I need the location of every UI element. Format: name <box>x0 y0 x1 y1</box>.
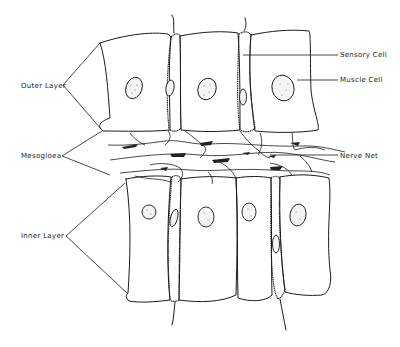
nucleus <box>198 207 214 227</box>
inner-cell-3 <box>236 177 272 301</box>
nucleus <box>123 75 146 101</box>
nerve-knot <box>200 141 213 146</box>
nerve-knot <box>170 153 186 157</box>
inner-cell-1 <box>126 176 171 302</box>
nucleus <box>240 89 247 105</box>
mesogloea-leader <box>62 131 110 175</box>
leader-lines <box>62 43 338 293</box>
label-mesogloea: Mesogloea <box>21 152 61 160</box>
nerve-knot <box>160 167 168 171</box>
sensory-process-bottom-1 <box>172 302 175 325</box>
nucleus-stipple <box>131 84 301 221</box>
inner-nuclei <box>142 203 308 253</box>
nerve-knot <box>290 142 300 146</box>
right-labels: Sensory Cell Muscle Cell Nerve Net <box>340 51 387 160</box>
nucleus <box>269 73 297 104</box>
nerve-knot <box>212 158 230 163</box>
label-outer-layer: Outer Layer <box>21 82 66 90</box>
nucleus <box>195 76 219 103</box>
outer-layer-cells <box>100 15 319 132</box>
label-muscle-cell: Muscle Cell <box>340 76 383 84</box>
hydra-body-wall-diagram: Outer Layer Mesogloea Inner Layer Sensor… <box>0 0 400 347</box>
sensory-process-top-1 <box>172 15 174 33</box>
nerve-knot <box>270 166 283 170</box>
label-nerve-net: Nerve Net <box>340 152 378 160</box>
inner-layer-cells <box>126 175 331 330</box>
outer-nuclei <box>123 73 297 105</box>
nucleus <box>142 205 156 219</box>
inner-cell-2 <box>179 177 237 302</box>
nucleus <box>165 79 176 96</box>
inner-layer-leader <box>66 183 127 293</box>
left-labels: Outer Layer Mesogloea Inner Layer <box>21 82 66 240</box>
nerve-knot <box>242 152 250 155</box>
outer-layer-leader <box>63 43 101 129</box>
nucleus <box>242 203 256 221</box>
inner-cell-4 <box>280 175 331 296</box>
nucleus <box>168 208 179 227</box>
sensory-process-bottom-2 <box>280 299 286 330</box>
nucleus <box>288 203 308 227</box>
sensory-process-top-2 <box>244 18 246 31</box>
label-sensory-cell: Sensory Cell <box>340 51 387 59</box>
label-inner-layer: Inner Layer <box>21 232 64 240</box>
nucleus <box>273 235 280 253</box>
